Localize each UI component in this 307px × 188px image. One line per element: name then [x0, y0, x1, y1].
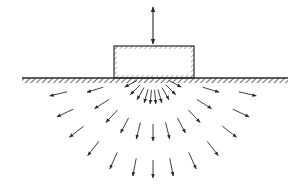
- arrow-icon: [166, 122, 170, 138]
- ground-hatch: [22, 78, 288, 83]
- arrow-icon: [189, 152, 196, 168]
- arrow-icon: [130, 85, 140, 95]
- arrow-icon: [188, 110, 200, 122]
- arrow-arc-middle: [87, 87, 219, 141]
- arrow-icon: [106, 110, 118, 122]
- arrow-icon: [121, 118, 129, 133]
- arrow-icon: [233, 109, 249, 117]
- arrow-icon: [69, 126, 83, 137]
- arrow-icon: [203, 87, 219, 92]
- arrow-icon: [239, 92, 257, 96]
- foundation-block: [114, 46, 194, 78]
- arrow-arc-inner: [125, 80, 182, 103]
- arrow-icon: [222, 126, 236, 137]
- arrow-icon: [166, 85, 176, 95]
- arrow-icon: [137, 88, 144, 100]
- wave-propagation-diagram: [0, 0, 307, 188]
- arrow-icon: [110, 152, 117, 168]
- arrow-icon: [94, 100, 108, 109]
- arrow-icon: [136, 122, 140, 138]
- arrow-icon: [155, 90, 156, 104]
- arrow-icon: [162, 88, 169, 100]
- arrow-icon: [133, 158, 136, 176]
- arrow-icon: [197, 100, 211, 109]
- wave-arrows: [50, 80, 257, 178]
- arrow-icon: [144, 89, 148, 102]
- ground-surface: [22, 78, 288, 83]
- arrow-icon: [87, 87, 103, 92]
- block-outline: [114, 46, 194, 78]
- arrow-icon: [50, 92, 68, 96]
- arrow-icon: [207, 141, 218, 155]
- arrow-icon: [88, 141, 99, 155]
- arrow-icon: [177, 118, 185, 133]
- arrow-icon: [170, 158, 173, 176]
- arrow-icon: [57, 109, 73, 117]
- arrow-icon: [158, 89, 162, 102]
- arrow-icon: [150, 90, 151, 104]
